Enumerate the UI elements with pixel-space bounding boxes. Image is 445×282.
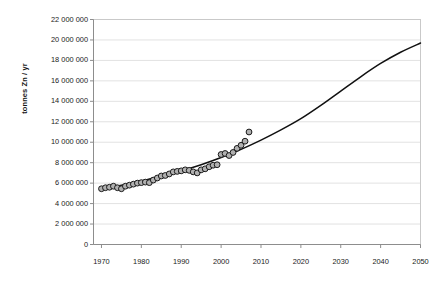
x-tick-label: 2050	[412, 257, 428, 266]
plot-frame	[94, 20, 421, 245]
y-tick-label: 0	[24, 240, 88, 249]
data-point-markers	[99, 129, 252, 192]
y-tick-label: 8 000 000	[24, 158, 88, 167]
frame-rect	[94, 20, 421, 245]
y-tick-label: 12 000 000	[24, 117, 88, 126]
zinc-production-chart: tonnes Zn / yr 02 000 0004 000 0006 000 …	[0, 0, 445, 282]
y-axis-tick-marks	[90, 20, 94, 245]
x-tick-label: 1970	[93, 257, 109, 266]
x-tick-label: 2030	[333, 257, 349, 266]
data-point-marker	[246, 129, 252, 135]
x-tick-label: 2000	[213, 257, 229, 266]
y-tick-label: 22 000 000	[24, 15, 88, 24]
x-tick-label: 2010	[253, 257, 269, 266]
y-tick-label: 10 000 000	[24, 137, 88, 146]
x-tick-label: 1980	[133, 257, 149, 266]
data-point-marker	[242, 138, 248, 144]
x-tick-label: 2020	[293, 257, 309, 266]
y-axis-title: tonnes Zn / yr	[20, 34, 29, 144]
y-tick-label: 14 000 000	[24, 96, 88, 105]
y-tick-label: 18 000 000	[24, 55, 88, 64]
trend-curve-path	[101, 43, 420, 189]
x-tick-label: 2040	[372, 257, 388, 266]
grid-lines	[94, 20, 421, 225]
trend-curve	[101, 43, 420, 189]
y-tick-label: 16 000 000	[24, 76, 88, 85]
y-tick-label: 4 000 000	[24, 199, 88, 208]
data-point-marker	[214, 162, 220, 168]
y-tick-label: 6 000 000	[24, 178, 88, 187]
x-axis-tick-marks	[101, 245, 420, 249]
y-tick-label: 2 000 000	[24, 219, 88, 228]
y-tick-label: 20 000 000	[24, 35, 88, 44]
x-tick-label: 1990	[173, 257, 189, 266]
